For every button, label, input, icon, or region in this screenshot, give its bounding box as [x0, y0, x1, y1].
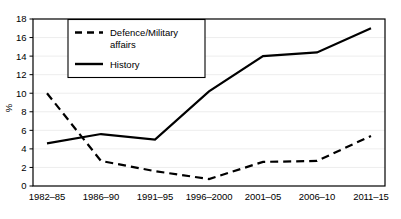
legend-label-1: affairs	[110, 39, 136, 50]
legend-label-2: History	[110, 59, 140, 70]
chart-canvas: 024681012141618 % 1982–851986–901991–951…	[0, 0, 401, 219]
series-line-1	[47, 93, 371, 179]
x-tick-label: 1986–90	[83, 191, 119, 202]
y-axis-tick-labels: 024681012141618	[16, 13, 27, 191]
y-tick-label: 16	[16, 32, 27, 43]
y-tick-label: 14	[16, 51, 27, 62]
y-tick-label: 10	[16, 88, 27, 99]
x-tick-label: 1991–95	[137, 191, 173, 202]
x-axis-tick-labels: 1982–851986–901991–951996–20002001–05200…	[29, 191, 389, 202]
x-tick-label: 2001–05	[245, 191, 281, 202]
x-tick-label: 1982–85	[29, 191, 65, 202]
chart-legend: Defence/MilitaryaffairsHistory	[68, 20, 205, 78]
y-tick-label: 2	[21, 162, 26, 173]
legend-label-1: Defence/Military	[110, 27, 178, 38]
line-chart: 024681012141618 % 1982–851986–901991–951…	[0, 0, 401, 219]
x-tick-label: 2011–15	[353, 191, 389, 202]
x-tick-label: 2006–10	[299, 191, 335, 202]
y-tick-label: 0	[21, 180, 26, 191]
x-tick-label: 1996–2000	[186, 191, 233, 202]
y-axis-title: %	[3, 103, 14, 112]
y-tick-label: 8	[21, 106, 26, 117]
y-tick-label: 4	[21, 143, 26, 154]
y-tick-label: 6	[21, 125, 26, 136]
y-tick-label: 12	[16, 69, 27, 80]
y-tick-label: 18	[16, 13, 27, 24]
